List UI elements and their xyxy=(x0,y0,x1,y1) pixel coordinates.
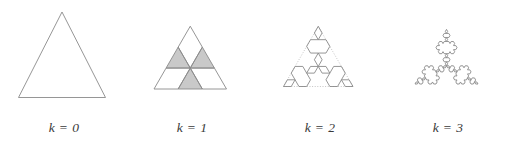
koch-panel-k3: k = 3 xyxy=(384,0,511,147)
koch-iteration-row: k = 0 k = 1 k = 2 k = 3 xyxy=(0,0,511,147)
koch-panel-k0: k = 0 xyxy=(0,0,128,147)
koch-figure-k1 xyxy=(128,0,256,120)
koch-figure-k3 xyxy=(384,0,511,120)
caption-k3: k = 3 xyxy=(384,120,511,136)
koch-figure-k0 xyxy=(0,0,128,120)
koch-figure-k2 xyxy=(256,0,384,120)
caption-k0: k = 0 xyxy=(0,120,128,136)
caption-k2: k = 2 xyxy=(256,120,384,136)
koch-panel-k1: k = 1 xyxy=(128,0,256,147)
caption-k1: k = 1 xyxy=(128,120,256,136)
koch-panel-k2: k = 2 xyxy=(256,0,384,147)
